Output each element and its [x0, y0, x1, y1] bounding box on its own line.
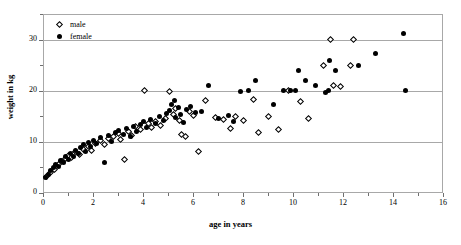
y-tick-label-10: 10: [15, 136, 37, 145]
data-point-female: [148, 117, 153, 122]
x-axis-title: age in years: [0, 219, 461, 229]
data-point-female: [161, 118, 166, 123]
data-point-female: [253, 78, 258, 83]
x-tick-16: [443, 193, 444, 197]
x-tick-12: [343, 193, 344, 197]
data-point-female: [333, 68, 338, 73]
y-tick-30: [39, 40, 43, 41]
x-tick-2: [93, 193, 94, 197]
data-point-female: [246, 88, 251, 93]
x-minor-tick-13: [368, 193, 369, 196]
x-tick-label-16: 16: [428, 198, 458, 207]
x-tick-label-6: 6: [178, 198, 208, 207]
data-point-female: [106, 133, 111, 138]
data-point-female: [76, 151, 81, 156]
data-point-female: [153, 121, 158, 126]
gridline-y-30: [44, 40, 442, 41]
y-tick-label-20: 20: [15, 85, 37, 94]
data-point-female: [327, 58, 332, 63]
x-tick-label-2: 2: [78, 198, 108, 207]
x-tick-8: [243, 193, 244, 197]
x-minor-tick-3: [118, 193, 119, 196]
data-point-female: [231, 119, 236, 124]
y-tick-label-0: 0: [15, 187, 37, 196]
legend-label: male: [70, 20, 86, 29]
data-point-female: [281, 88, 286, 93]
y-tick-20: [39, 91, 43, 92]
y-minor-tick-5: [40, 167, 43, 168]
data-point-female: [178, 112, 183, 117]
open-diamond-icon: [56, 21, 63, 28]
x-minor-tick-9: [268, 193, 269, 196]
data-point-female: [167, 108, 172, 113]
data-point-female: [71, 154, 76, 159]
x-minor-tick-5: [168, 193, 169, 196]
y-tick-0: [39, 193, 43, 194]
legend-item-male: male: [56, 19, 92, 31]
x-tick-label-14: 14: [378, 198, 408, 207]
x-minor-tick-7: [218, 193, 219, 196]
data-point-female: [226, 113, 231, 118]
x-tick-4: [143, 193, 144, 197]
y-axis-title: weight in kg: [5, 62, 15, 132]
data-point-female: [356, 63, 361, 68]
x-tick-label-12: 12: [328, 198, 358, 207]
y-tick-10: [39, 142, 43, 143]
legend-label: female: [70, 32, 92, 41]
y-minor-tick-25: [40, 65, 43, 66]
data-point-female: [326, 88, 331, 93]
y-minor-tick-35: [40, 14, 43, 15]
data-point-female: [116, 128, 121, 133]
data-point-female: [271, 102, 276, 107]
x-tick-10: [293, 193, 294, 197]
data-point-female: [83, 149, 88, 154]
data-point-female: [56, 164, 61, 169]
data-point-female: [296, 68, 301, 73]
data-point-female: [199, 109, 204, 114]
y-tick-label-30: 30: [15, 34, 37, 43]
chart-legend: malefemale: [56, 19, 92, 43]
x-tick-6: [193, 193, 194, 197]
x-minor-tick-15: [418, 193, 419, 196]
x-tick-label-0: 0: [28, 198, 58, 207]
x-tick-label-10: 10: [278, 198, 308, 207]
data-point-female: [188, 104, 193, 109]
gridline-y-20: [44, 91, 442, 92]
data-point-female: [141, 119, 146, 124]
filled-circle-icon: [57, 34, 62, 39]
data-point-female: [193, 110, 198, 115]
x-minor-tick-1: [68, 193, 69, 196]
x-minor-tick-11: [318, 193, 319, 196]
data-point-female: [206, 83, 211, 88]
data-point-female: [176, 105, 181, 110]
x-tick-label-8: 8: [228, 198, 258, 207]
x-tick-14: [393, 193, 394, 197]
data-point-female: [121, 132, 126, 137]
scatter-chart: 0102030 weight in kg age in years malefe…: [0, 0, 461, 245]
data-point-female: [102, 160, 107, 165]
x-tick-0: [43, 193, 44, 197]
y-minor-tick-15: [40, 116, 43, 117]
data-point-female: [216, 116, 221, 121]
x-tick-label-4: 4: [128, 198, 158, 207]
data-point-female: [401, 31, 406, 36]
data-point-female: [303, 78, 308, 83]
data-point-female: [181, 120, 186, 125]
plot-area: [43, 14, 443, 193]
data-point-female: [66, 157, 71, 162]
legend-item-female: female: [56, 31, 92, 43]
data-point-female: [61, 160, 66, 165]
